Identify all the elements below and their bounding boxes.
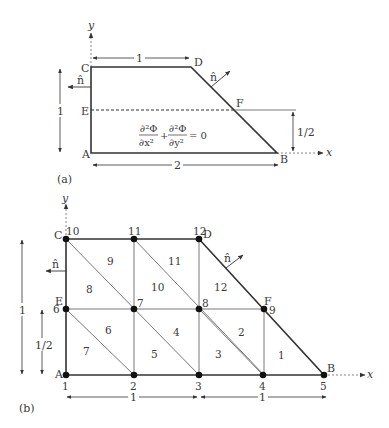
x-axis-label: x — [326, 146, 333, 159]
normal-left-label: n̂ — [52, 258, 59, 271]
dim-top-label: 1 — [136, 52, 143, 65]
node-1 — [63, 372, 70, 379]
element-label-7: 7 — [83, 345, 90, 357]
dim-right-label: 1/2 — [297, 126, 315, 139]
x-axis-label: x — [367, 368, 374, 381]
dim-left-label: 1 — [19, 304, 26, 317]
finite-element-diagram: y x A B C D E F n̂ n̂ 1 1 1/2 — [0, 0, 389, 428]
laplace-equation: ∂²Φ ∂x² + ∂²Φ ∂y² = 0 — [139, 123, 207, 148]
node-4 — [260, 372, 267, 379]
element-label-9: 9 — [107, 255, 114, 267]
figure-b-caption: (b) — [19, 402, 35, 415]
element-label-5: 5 — [151, 348, 158, 360]
element-label-10: 10 — [151, 281, 164, 293]
point-b-label: B — [280, 153, 288, 166]
eq-term1-denominator: ∂x² — [139, 137, 154, 148]
element-label-2: 2 — [238, 326, 245, 338]
point-f-label: F — [264, 295, 272, 308]
normal-diagonal-label: n̂ — [210, 71, 217, 84]
normal-diagonal-label: n̂ — [224, 252, 231, 265]
eq-term2-denominator: ∂y² — [169, 137, 184, 148]
node-label-7: 7 — [137, 297, 144, 309]
point-e-label: E — [55, 295, 63, 308]
node-label-3: 3 — [195, 380, 202, 392]
node-3 — [196, 372, 203, 379]
element-label-12: 12 — [214, 281, 227, 293]
element-label-6: 6 — [105, 324, 112, 336]
node-2 — [131, 372, 138, 379]
point-d-label: D — [194, 56, 203, 69]
node-label-8: 8 — [202, 297, 209, 309]
point-d-label: D — [203, 228, 212, 241]
eq-term2-numerator: ∂²Φ — [169, 123, 186, 134]
point-e-label: E — [81, 105, 89, 118]
y-axis-label: y — [61, 192, 69, 205]
dim-left-label: 1 — [57, 105, 64, 118]
node-label-11: 11 — [128, 225, 141, 237]
point-a-label: A — [81, 148, 91, 161]
node-label-5: 5 — [320, 380, 327, 392]
figure-a-caption: (a) — [57, 173, 72, 186]
point-f-label: F — [236, 97, 244, 110]
mesh-lines — [66, 239, 264, 375]
dim-bottom-right-label: 1 — [259, 391, 266, 404]
figure-a: y x A B C D E F n̂ n̂ 1 1 1/2 — [57, 19, 333, 186]
element-label-11: 11 — [168, 255, 181, 267]
element-label-8: 8 — [86, 283, 93, 295]
node-label-10: 10 — [66, 225, 79, 237]
element-label-1: 1 — [278, 349, 285, 361]
dim-bottom-label: 2 — [174, 159, 181, 172]
eq-term1-numerator: ∂²Φ — [140, 123, 157, 134]
mesh-nodes — [63, 236, 328, 379]
y-axis-label: y — [87, 19, 95, 32]
point-a-label: A — [54, 368, 64, 381]
point-c-label: C — [54, 229, 62, 242]
node-label-1: 1 — [62, 380, 69, 392]
node-6 — [63, 306, 70, 313]
figure-b: y x — [19, 192, 374, 415]
point-b-label: B — [327, 362, 335, 375]
element-label-4: 4 — [173, 326, 180, 338]
eq-rhs: = 0 — [189, 130, 207, 141]
normal-left-label: n̂ — [77, 74, 84, 87]
domain-boundary — [66, 239, 324, 375]
element-label-3: 3 — [215, 348, 222, 360]
dim-bottom-left-label: 1 — [130, 391, 137, 404]
eq-plus: + — [160, 130, 168, 141]
dim-half-label: 1/2 — [35, 339, 53, 352]
